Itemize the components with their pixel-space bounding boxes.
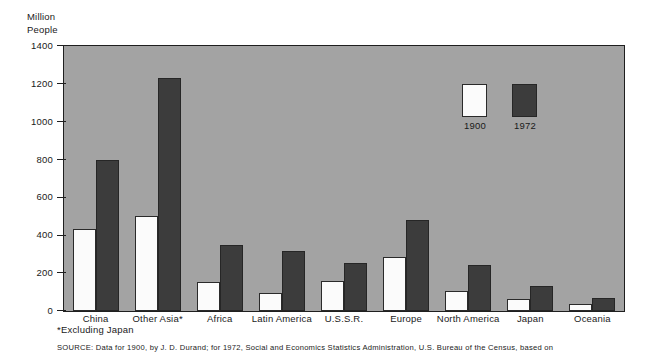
y-axis-tick-label: 200 <box>3 267 53 278</box>
y-axis-tick <box>57 272 66 273</box>
bar-1972-oceania <box>592 298 615 311</box>
x-axis-label-europe: Europe <box>390 313 422 324</box>
bar-1900-japan <box>507 299 530 311</box>
legend-label-1972: 1972 <box>510 120 540 131</box>
x-axis-label-africa: Africa <box>207 313 232 324</box>
legend-swatch-1972 <box>512 84 537 117</box>
bar-1900-oceania <box>569 304 592 311</box>
y-axis-tick <box>57 197 66 198</box>
y-axis-tick <box>57 45 66 46</box>
bar-1972-otherasia <box>158 78 181 311</box>
y-axis-tick <box>57 121 66 122</box>
bar-1972-northamerica <box>468 265 491 311</box>
x-axis-label-northamerica: North America <box>437 313 500 324</box>
y-axis-tick-label: 1400 <box>3 40 53 51</box>
bar-1900-africa <box>197 282 220 311</box>
legend-label-1900: 1900 <box>460 120 490 131</box>
y-axis-tick <box>57 235 66 236</box>
y-axis-tick <box>57 83 66 84</box>
footnote-excluding-japan: *Excluding Japan <box>57 324 134 335</box>
y-axis-tick-label: 400 <box>3 229 53 240</box>
legend-swatch-1900 <box>462 84 487 117</box>
bar-1900-latinamerica <box>259 293 282 311</box>
y-axis-tick-label: 1000 <box>3 116 53 127</box>
bar-1900-northamerica <box>445 291 468 311</box>
bar-1972-japan <box>530 286 553 311</box>
bar-1900-otherasia <box>135 216 158 311</box>
x-axis-label-otherasia: Other Asia* <box>133 313 183 324</box>
y-axis-labels: 0200400600800100012001400 <box>0 0 53 358</box>
x-axis-label-ussr: U.S.S.R. <box>325 313 364 324</box>
y-axis-tick-label: 1200 <box>3 78 53 89</box>
bar-1972-china <box>96 160 119 311</box>
y-axis-tick-label: 600 <box>3 191 53 202</box>
bar-1972-latinamerica <box>282 251 305 311</box>
bar-1972-ussr <box>344 263 367 311</box>
x-axis-label-japan: Japan <box>517 313 544 324</box>
x-axis-label-latinamerica: Latin America <box>252 313 312 324</box>
chart-legend: 1900 1972 <box>462 84 582 136</box>
source-note: SOURCE: Data for 1900, by J. D. Durand; … <box>57 343 553 352</box>
y-axis-tick <box>57 159 66 160</box>
y-axis-tick <box>57 310 66 311</box>
x-axis-label-china: China <box>83 313 109 324</box>
bar-1900-europe <box>383 257 406 311</box>
bar-1972-europe <box>406 220 429 311</box>
bar-1972-africa <box>220 245 243 311</box>
y-axis-tick-label: 800 <box>3 154 53 165</box>
bar-1900-ussr <box>321 281 344 311</box>
x-axis-label-oceania: Oceania <box>574 313 611 324</box>
bar-1900-china <box>73 229 96 311</box>
